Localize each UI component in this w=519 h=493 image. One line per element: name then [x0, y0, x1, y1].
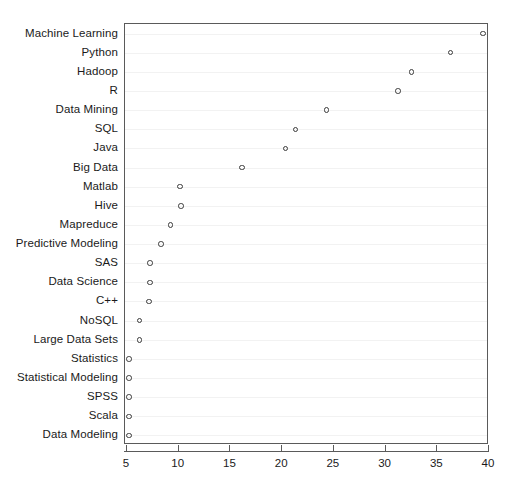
data-point: [126, 433, 132, 439]
category-label: Hadoop: [77, 65, 118, 77]
x-axis-tick: [229, 445, 230, 452]
data-point: [126, 356, 132, 362]
data-point: [126, 414, 132, 420]
category-label: Statistics: [71, 352, 118, 364]
data-point: [126, 394, 132, 400]
data-point: [126, 375, 132, 381]
data-point: [137, 318, 143, 324]
data-point: [324, 107, 330, 113]
category-label: Big Data: [73, 161, 118, 173]
data-point: [168, 222, 174, 228]
category-label: Machine Learning: [25, 27, 118, 39]
data-point: [448, 50, 454, 56]
x-axis-tick-label: 20: [275, 456, 288, 470]
data-point: [480, 31, 486, 37]
x-axis-tick-label: 15: [223, 456, 236, 470]
x-axis-tick-label: 10: [171, 456, 184, 470]
category-label: C++: [96, 294, 118, 306]
category-label: R: [110, 84, 118, 96]
x-axis-tick: [281, 445, 282, 452]
x-axis-tick: [333, 445, 334, 452]
data-points-layer: [125, 24, 487, 443]
plot-panel: [124, 23, 488, 444]
data-point: [147, 280, 153, 286]
category-label: Statistical Modeling: [17, 371, 118, 383]
category-label: SPSS: [87, 390, 118, 402]
x-axis-tick-label: 35: [430, 456, 443, 470]
category-label: Data Mining: [56, 103, 118, 115]
category-label: NoSQL: [80, 314, 118, 326]
category-label: Hive: [95, 199, 118, 211]
category-label: Java: [93, 141, 118, 153]
x-axis-tick: [178, 445, 179, 452]
dot-plot-chart: Machine LearningPythonHadoopRData Mining…: [0, 0, 519, 493]
category-label: Matlab: [83, 180, 118, 192]
category-label: SQL: [95, 122, 118, 134]
x-axis-tick: [436, 445, 437, 452]
x-axis-tick: [385, 445, 386, 452]
category-label: Data Science: [48, 275, 118, 287]
x-axis-tick-label: 25: [326, 456, 339, 470]
data-point: [147, 260, 153, 266]
category-label: SAS: [95, 256, 118, 268]
data-point: [177, 184, 183, 190]
x-axis-tick-label: 30: [378, 456, 391, 470]
category-label: Large Data Sets: [33, 333, 118, 345]
category-label: Scala: [89, 409, 118, 421]
category-label: Data Modeling: [43, 428, 118, 440]
data-point: [158, 241, 164, 247]
data-point: [178, 203, 184, 209]
category-axis: Machine LearningPythonHadoopRData Mining…: [0, 0, 118, 493]
category-label: Predictive Modeling: [16, 237, 118, 249]
category-label: Python: [82, 46, 118, 58]
data-point: [409, 69, 415, 75]
data-point: [283, 146, 289, 152]
x-axis-tick: [488, 445, 489, 452]
category-label: Mapreduce: [60, 218, 118, 230]
x-axis-tick: [126, 445, 127, 452]
data-point: [137, 337, 143, 343]
data-point: [146, 299, 152, 305]
x-axis-tick-label: 5: [123, 456, 129, 470]
x-axis: 510152025303540: [124, 444, 488, 493]
data-point: [395, 88, 401, 94]
x-axis-tick-label: 40: [482, 456, 495, 470]
data-point: [239, 165, 245, 171]
data-point: [293, 127, 299, 133]
